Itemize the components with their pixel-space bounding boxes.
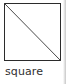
square-shape-figure <box>4 3 61 61</box>
shape-figure-card: square <box>0 0 66 84</box>
square-shape-svg <box>4 3 61 61</box>
shape-caption-label: square <box>5 66 65 78</box>
